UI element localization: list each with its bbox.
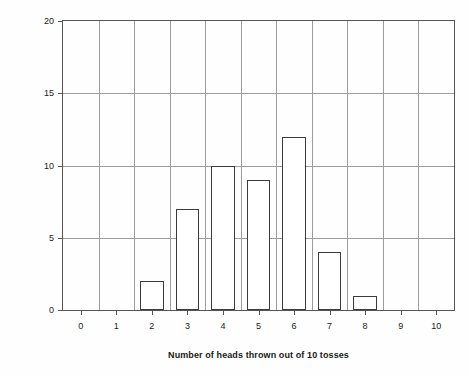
- gridline-vertical: [134, 21, 135, 310]
- x-tick-mark: [294, 310, 295, 315]
- bar: [353, 296, 377, 310]
- y-tick-label: 0: [49, 305, 54, 315]
- x-tick-mark: [81, 310, 82, 315]
- x-axis-title: Number of heads thrown out of 10 tosses: [62, 350, 455, 360]
- x-tick-label: 10: [431, 321, 441, 331]
- y-tick-mark: [58, 238, 63, 239]
- bar: [176, 209, 200, 310]
- y-tick-label: 20: [44, 16, 54, 26]
- x-tick-mark: [436, 310, 437, 315]
- gridline-vertical: [276, 21, 277, 310]
- gridline-horizontal: [63, 93, 454, 94]
- x-tick-mark: [187, 310, 188, 315]
- x-tick-label: 7: [327, 321, 332, 331]
- gridline-vertical: [347, 21, 348, 310]
- x-tick-mark: [116, 310, 117, 315]
- x-tick-label: 5: [256, 321, 261, 331]
- x-tick-mark: [223, 310, 224, 315]
- gridline-horizontal: [63, 166, 454, 167]
- gridline-vertical: [383, 21, 384, 310]
- x-tick-mark: [152, 310, 153, 315]
- gridline-vertical: [170, 21, 171, 310]
- y-tick-mark: [58, 166, 63, 167]
- y-tick-mark: [58, 310, 63, 311]
- gridline-vertical: [205, 21, 206, 310]
- x-tick-label: 9: [398, 321, 403, 331]
- y-tick-label: 5: [49, 233, 54, 243]
- bar: [318, 252, 342, 310]
- gridline-vertical: [312, 21, 313, 310]
- y-tick-mark: [58, 93, 63, 94]
- gridline-vertical: [418, 21, 419, 310]
- x-tick-mark: [401, 310, 402, 315]
- x-tick-label: 4: [220, 321, 225, 331]
- y-tick-mark: [58, 21, 63, 22]
- y-tick-label: 15: [44, 88, 54, 98]
- bar: [282, 137, 306, 310]
- x-tick-label: 6: [292, 321, 297, 331]
- y-axis-title: Number of trials: [22, 0, 44, 376]
- x-tick-mark: [330, 310, 331, 315]
- gridline-vertical: [99, 21, 100, 310]
- y-tick-label: 10: [44, 161, 54, 171]
- bar: [247, 180, 271, 310]
- x-tick-label: 8: [363, 321, 368, 331]
- x-tick-label: 3: [185, 321, 190, 331]
- x-tick-mark: [259, 310, 260, 315]
- x-tick-mark: [365, 310, 366, 315]
- bar-chart: Number of trials 05101520012345678910 Nu…: [0, 0, 469, 376]
- x-tick-label: 2: [149, 321, 154, 331]
- x-tick-label: 1: [114, 321, 119, 331]
- bar: [211, 166, 235, 311]
- gridline-vertical: [241, 21, 242, 310]
- bar: [140, 281, 164, 310]
- plot-area: 05101520012345678910: [62, 20, 455, 311]
- x-tick-label: 0: [78, 321, 83, 331]
